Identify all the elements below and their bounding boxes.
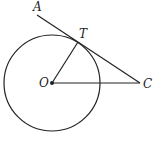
label-A: A [32, 0, 42, 14]
radius-OT [52, 42, 78, 83]
label-C: C [143, 77, 152, 91]
label-O: O [39, 76, 49, 90]
tangent-line-AC [37, 15, 140, 83]
center-point-O [50, 81, 54, 85]
label-T: T [79, 27, 88, 41]
diagram-canvas: A T O C [0, 0, 157, 142]
geometry-diagram: A T O C [0, 0, 157, 142]
